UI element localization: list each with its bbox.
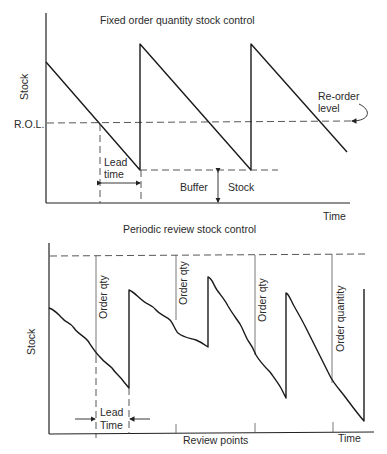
order-qty-label-3: Order qty: [256, 277, 268, 322]
fixed-order-quantity-chart: Fixed order quantity stock control Stock…: [14, 13, 367, 222]
bottom-lead-time-label-1: Lead: [100, 406, 124, 418]
bottom-lead-time-label-2: Time: [100, 419, 123, 431]
stock-sawtooth: [46, 44, 347, 170]
bottom-y-axis-label: Stock: [25, 328, 37, 355]
max-stock-line: [50, 254, 366, 256]
order-qty-label-4: Order quantity: [334, 285, 346, 352]
rol-label: R.O.L.: [14, 118, 44, 130]
reorder-level-label-1: Re-order: [318, 90, 360, 102]
reorder-level-line: [47, 121, 352, 123]
order-qty-label-1: Order qty: [97, 274, 109, 319]
lead-time-label-2: time: [104, 168, 124, 180]
reorder-level-pointer-arrow: [352, 104, 367, 121]
top-x-axis-label: Time: [323, 210, 346, 222]
periodic-review-chart: Periodic review stock control Stock Time…: [25, 223, 374, 446]
review-points-label: Review points: [183, 434, 248, 446]
reorder-level-label-2: level: [318, 102, 340, 114]
buffer-stock-label: Stock: [228, 181, 255, 193]
stock-control-diagram: Fixed order quantity stock control Stock…: [0, 0, 387, 454]
order-qty-label-2: Order qty: [177, 260, 189, 305]
top-chart-title: Fixed order quantity stock control: [100, 14, 255, 26]
bottom-chart-title: Periodic review stock control: [123, 223, 256, 235]
top-y-axis-label: Stock: [18, 73, 30, 100]
buffer-label: Buffer: [180, 181, 208, 193]
bottom-x-axis-label: Time: [338, 432, 361, 444]
lead-time-label-1: Lead: [104, 156, 128, 168]
